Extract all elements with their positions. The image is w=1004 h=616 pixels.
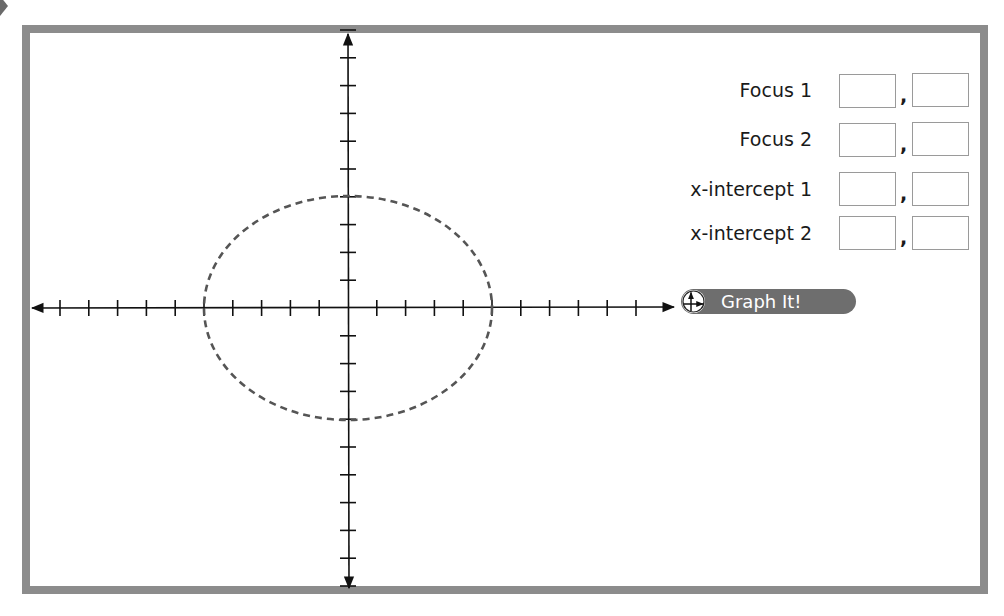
x-intercept-2-x-input[interactable] — [839, 216, 896, 250]
label-x-intercept-2: x-intercept 2 — [612, 222, 812, 244]
x-intercept-2-y-input[interactable] — [912, 216, 969, 250]
label-focus-1: Focus 1 — [612, 79, 812, 101]
x-intercept-1-y-input[interactable] — [912, 172, 969, 206]
x-intercept-1-x-input[interactable] — [839, 172, 896, 206]
comma-separator: , — [900, 84, 907, 106]
focus-1-x-input[interactable] — [839, 74, 896, 108]
comma-separator: , — [900, 133, 907, 155]
focus-2-x-input[interactable] — [839, 123, 896, 157]
axes-icon — [682, 290, 705, 313]
comma-separator: , — [900, 226, 907, 248]
focus-1-y-input[interactable] — [912, 73, 969, 107]
comma-separator: , — [900, 182, 907, 204]
graph-it-button[interactable]: Graph It! — [681, 289, 856, 314]
label-focus-2: Focus 2 — [612, 128, 812, 150]
y-axis — [348, 34, 349, 588]
focus-2-y-input[interactable] — [912, 122, 969, 156]
label-x-intercept-1: x-intercept 1 — [612, 178, 812, 200]
graph-it-label: Graph It! — [721, 291, 802, 312]
